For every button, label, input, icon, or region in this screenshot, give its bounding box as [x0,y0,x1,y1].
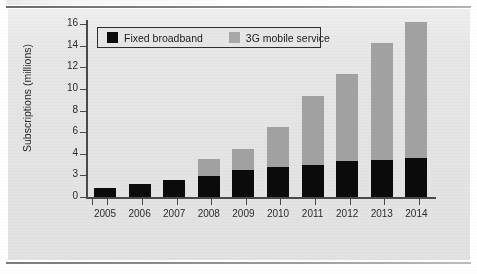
legend-swatch-icon [107,32,118,43]
bar-segment [163,180,185,197]
y-axis-tick-mark [80,24,87,25]
legend-item-3g-mobile-service: 3G mobile service [229,32,330,44]
x-axis-tick-mark [107,199,108,205]
y-axis-tick-mark [80,89,87,90]
bar-segment [371,160,393,197]
y-axis-tick-mark [80,67,87,68]
x-axis-tick-label: 2014 [396,208,436,219]
y-axis-tick-mark [80,111,87,112]
bar-segment [336,161,358,197]
y-axis-tick-label: 4 [56,148,78,158]
y-axis-tick-mark [80,46,87,47]
bar-segment [371,43,393,160]
bar-segment [198,159,220,176]
y-axis-tick-mark [80,154,87,155]
x-axis-tick-mark [177,199,178,205]
x-axis-tick-mark [280,199,281,205]
bar-segment [198,176,220,197]
bar-segment [129,184,151,197]
bar-segment [267,167,289,197]
y-axis-line [86,20,88,199]
bar-segment [336,74,358,162]
y-axis-tick-label: 6 [56,126,78,136]
x-axis-tick-mark [246,199,247,205]
y-axis-tick-mark [80,175,87,176]
stacked-bar-chart: Subscriptions (millions) 0346810121416 2… [0,0,477,274]
y-axis-tick-label: 8 [56,105,78,115]
bar-segment [232,149,254,170]
chart-legend: Fixed broadband 3G mobile service [97,27,321,48]
legend-label: 3G mobile service [246,32,330,44]
legend-label: Fixed broadband [124,32,203,44]
legend-swatch-icon [229,32,240,43]
x-axis-tick-mark [350,199,351,205]
y-axis-tick-mark [80,197,87,198]
x-axis-tick-mark [142,199,143,205]
y-axis-tick-mark [80,132,87,133]
y-axis-tick-label: 14 [56,40,78,50]
bar-segment [405,22,427,158]
y-axis-title: Subscriptions (millions) [21,33,33,163]
x-axis-tick-mark [211,199,212,205]
bar-segment [267,127,289,167]
x-axis-tick-mark [419,199,420,205]
legend-item-fixed-broadband: Fixed broadband [107,32,203,44]
bar-segment [405,158,427,197]
y-axis-tick-label: 12 [56,61,78,71]
bar-segment [302,165,324,197]
x-axis-tick-mark [384,199,385,205]
bar-segment [232,170,254,197]
x-axis-tick-mark [92,199,93,205]
bar-segment [94,188,116,197]
bar-segment [302,96,324,164]
y-axis-tick-label: 16 [56,18,78,28]
y-axis-tick-label: 10 [56,83,78,93]
x-axis-tick-mark [315,199,316,205]
figure-page: Subscriptions (millions) 0346810121416 2… [0,0,477,274]
y-axis-tick-label: 3 [56,169,78,179]
y-axis-tick-label: 0 [56,191,78,201]
